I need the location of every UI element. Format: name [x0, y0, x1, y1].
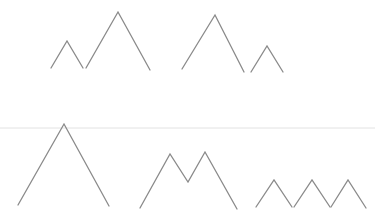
small-peak-3: [331, 180, 366, 208]
small-peak-1: [256, 180, 292, 207]
bottom-row: [18, 124, 366, 209]
double-peak-left: [51, 12, 150, 70]
m-shape-peaks: [140, 152, 237, 209]
mountain-drawing-canvas: [0, 0, 375, 224]
small-peak: [251, 46, 283, 72]
single-large-peak: [18, 124, 109, 206]
large-peak: [18, 124, 109, 206]
triple-small-peaks: [256, 180, 366, 208]
small-peak: [51, 41, 83, 68]
top-row: [51, 12, 283, 72]
tall-peak: [86, 12, 150, 70]
small-peak-2: [294, 180, 330, 207]
m-shape: [140, 152, 237, 209]
double-peak-right: [182, 15, 283, 72]
tall-peak: [182, 15, 244, 72]
